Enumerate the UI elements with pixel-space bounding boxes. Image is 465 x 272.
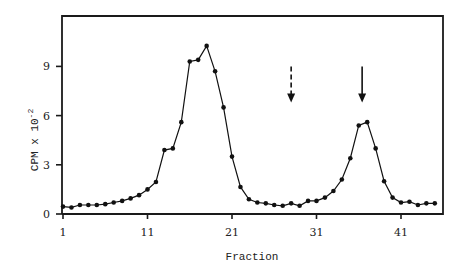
arrow-head-icon [358,93,366,102]
annotation-arrows [287,66,366,102]
data-point [280,204,285,209]
data-point [255,200,260,205]
data-point [433,201,438,206]
data-point [111,200,116,205]
data-point [399,200,404,205]
data-point [61,204,66,209]
data-point [204,44,209,49]
data-point [348,156,353,161]
data-point [356,123,361,128]
y-tick-label: 9 [43,60,50,73]
y-tick-label: 0 [43,208,50,221]
data-point [314,199,319,204]
data-point [78,203,83,208]
y-axis-title: CPM x 10-2 [26,109,41,172]
data-series [61,44,437,210]
y-tick-label: 6 [43,110,50,123]
data-point [424,201,429,206]
y-axis-title-main: CPM x 10 [29,118,41,171]
data-point [247,197,252,202]
data-point [86,203,91,208]
data-point [120,199,125,204]
data-point [272,203,277,208]
data-point [230,154,235,159]
data-point [187,59,192,64]
svg-text:CPM x 10-2: CPM x 10-2 [26,109,41,172]
data-point [416,203,421,208]
data-point [297,204,302,209]
x-tick-label: 1 [60,226,67,239]
data-point [238,185,243,190]
data-point [390,195,395,200]
data-point [306,199,311,204]
x-tick-label: 21 [225,226,239,239]
data-point [171,146,176,151]
x-axis-title: Fraction [226,251,279,263]
data-point [154,180,159,185]
data-point [289,201,294,206]
data-point [340,177,345,182]
data-point [382,179,387,184]
data-point [179,120,184,125]
data-point [103,202,108,207]
axis-ticks: 1112131410369 [43,60,408,239]
data-point [407,199,412,204]
data-point [69,205,74,210]
data-point [264,201,269,206]
data-point [331,189,336,194]
data-point [196,58,201,63]
data-point [95,203,100,208]
data-point [145,187,150,192]
data-point [221,105,226,110]
data-point [128,196,133,201]
y-axis-title-exponent: -2 [26,109,35,119]
data-point [137,193,142,198]
data-point [162,148,167,153]
data-point [323,195,328,200]
y-tick-label: 3 [43,159,50,172]
data-point [373,146,378,151]
arrow-head-icon [287,93,295,102]
x-tick-label: 41 [394,226,408,239]
chart: 1112131410369 Fraction CPM x 10-2 [0,0,465,272]
data-line [63,46,435,208]
x-tick-label: 31 [310,226,324,239]
data-point [365,120,370,125]
x-tick-label: 11 [141,226,155,239]
data-point [213,69,218,74]
